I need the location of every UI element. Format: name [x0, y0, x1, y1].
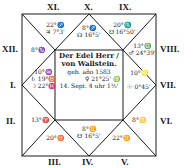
house-i-cusp: 10°♒ [26, 68, 60, 75]
house-ii-cusp: 13°♈ [26, 116, 54, 123]
house-vii-cell: 10°♌ ☉ 0°45' [124, 69, 154, 90]
house-v-cusp: 22°♊ [106, 134, 136, 141]
house-label-iv: IV. [82, 158, 93, 167]
chart-center-title: Der Edel Herr / von Wallstein. geb. año … [56, 52, 122, 89]
house-ii-cell: 13°♈ [26, 116, 54, 123]
house-i-cell: 10°♒ ♄ 19°♉ ☽ 22°♓ [26, 68, 60, 89]
house-label-vi: VI. [160, 117, 172, 126]
house-label-xii: XII. [2, 45, 18, 54]
house-iii-cusp: 20°♉ [40, 134, 70, 141]
house-label-v: V. [121, 158, 129, 167]
venus-position: ♀ 21°25' ♍ [56, 75, 122, 82]
house-xi-cell: 22°♐ ♃ 7°3' [38, 21, 72, 35]
house-ix-planet: ☋ 16°50' [104, 28, 140, 35]
house-vii-sun: ☉ 0°45' [124, 83, 154, 90]
house-i-saturn: ♄ 19°♉ [26, 75, 60, 82]
house-label-ii: II. [6, 117, 15, 126]
house-xii-cusp: 8°♑ [26, 46, 50, 53]
house-x-cusp: 8°♐ [72, 24, 106, 31]
house-vi-cell: 8°♋ [126, 116, 152, 123]
house-viii-planet: ♂ 24°39' [126, 49, 158, 56]
house-x-cell: 8°♐ ☊ 16°5' [72, 24, 106, 38]
house-ix-cusp: 20°♏ [104, 21, 140, 28]
house-xi-cusp: 22°♐ [38, 21, 72, 28]
house-label-x: X. [84, 3, 93, 12]
house-iii-cell: 20°♉ [40, 134, 70, 141]
house-xii-cell: 8°♑ [26, 46, 50, 53]
house-label-vii: VII. [160, 81, 176, 90]
house-viii-cusp: 13°♎ [126, 42, 158, 49]
house-x-planet: ☊ 16°5' [72, 31, 106, 38]
house-label-ix: IX. [119, 3, 131, 12]
house-iv-cell: 8°♊ ☋ 16°5' [72, 125, 106, 139]
house-i-moon: ☽ 22°♓ [26, 82, 60, 89]
subject-name-line2: von Wallstein. [56, 60, 122, 68]
house-label-i: I. [10, 81, 16, 90]
house-label-viii: VIII. [160, 45, 179, 54]
house-iv-cusp: 8°♊ [72, 125, 106, 132]
house-xi-planet: ♃ 7°3' [38, 28, 72, 35]
house-label-iii: III. [48, 158, 61, 167]
house-v-cell: 22°♊ [106, 134, 136, 141]
house-iv-node: ☋ 16°5' [72, 132, 106, 139]
house-viii-cell: 13°♎ ♂ 24°39' [126, 42, 158, 56]
house-label-xi: XI. [47, 3, 59, 12]
house-ix-cell: 20°♏ ☋ 16°50' [104, 21, 140, 35]
birth-year: geb. año 1583 [56, 68, 122, 75]
birth-date-time: 14. Sept. 4 uhr 1½' [56, 82, 122, 89]
house-vii-cusp: 10°♌ [124, 69, 154, 76]
house-vi-cusp: 8°♋ [126, 116, 152, 123]
